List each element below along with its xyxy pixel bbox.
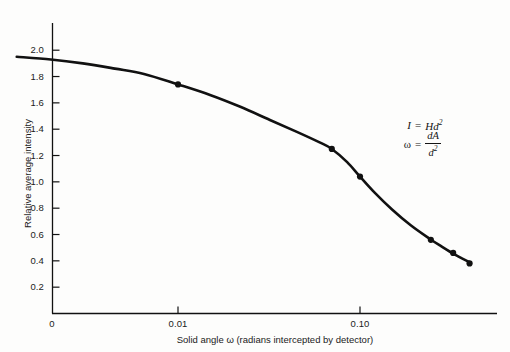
x-axis-tick-label: 0.01 <box>158 318 198 329</box>
equation-solid-angle-lhs: ω <box>399 138 411 151</box>
axes-lines <box>52 23 497 314</box>
equation-solid-angle: ω = dA d2 <box>399 136 442 153</box>
x-axis-title: Solid angle ω (radians intercepted by de… <box>52 334 498 345</box>
y-axis-tick-label: 0.8 <box>14 202 44 213</box>
data-point-markers <box>175 81 473 266</box>
figure-container: Relative average intensity Solid angle ω… <box>0 0 510 352</box>
chart-plot-area <box>0 0 510 352</box>
equation-solid-angle-equals: = <box>415 138 421 151</box>
equation-intensity-lhs: I <box>399 119 411 132</box>
equation-solid-angle-numerator: dA <box>425 131 441 143</box>
data-point-marker <box>466 260 472 266</box>
equation-intensity-equals: = <box>415 119 421 132</box>
data-curve <box>17 57 470 262</box>
y-axis-tick-label: 0.6 <box>14 229 44 240</box>
data-point-marker <box>329 146 335 152</box>
y-axis-title: Relative average intensity <box>22 99 33 249</box>
data-point-marker <box>450 250 456 256</box>
data-point-marker <box>175 81 181 87</box>
y-axis-tick-label: 1.0 <box>14 176 44 187</box>
y-axis-tick-label: 1.4 <box>14 123 44 134</box>
y-axis-tick-label: 1.8 <box>14 71 44 82</box>
y-axis-tick-label: 0.2 <box>14 281 44 292</box>
y-axis-tick-label: 2.0 <box>14 44 44 55</box>
equation-intensity-rhs-exponent: 2 <box>439 118 443 127</box>
x-axis-tick-label: 0.10 <box>340 318 380 329</box>
equation-solid-angle-denominator: d2 <box>427 144 440 158</box>
data-point-marker <box>428 237 434 243</box>
equation-solid-angle-fraction: dA d2 <box>425 131 441 158</box>
y-axis-ticks <box>53 50 60 287</box>
x-axis-ticks <box>178 307 360 314</box>
y-axis-tick-label: 1.2 <box>14 150 44 161</box>
y-axis-tick-label: 1.6 <box>14 97 44 108</box>
y-axis-tick-label: 0.4 <box>14 255 44 266</box>
x-axis-origin-label: 0 <box>32 318 72 329</box>
equation-solid-angle-denominator-exponent: 2 <box>434 144 438 153</box>
data-point-marker <box>357 173 363 179</box>
equation-annotation: I = Hd2 ω = dA d2 <box>399 117 442 153</box>
